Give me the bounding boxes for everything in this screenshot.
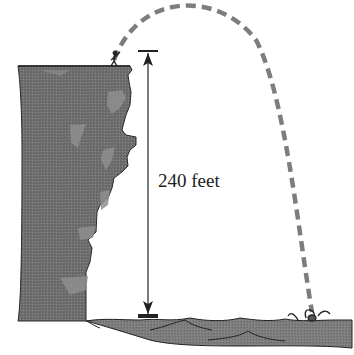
diagram: 240 feet — [0, 0, 354, 355]
splash — [288, 310, 330, 321]
cliff — [18, 66, 136, 321]
water — [86, 318, 352, 348]
height-label: 240 feet — [158, 170, 220, 192]
base-marker — [138, 314, 158, 318]
height-measure — [138, 51, 158, 314]
